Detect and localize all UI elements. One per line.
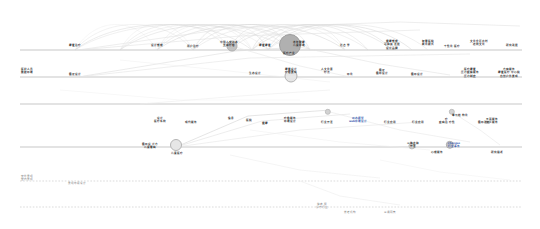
node-label-l1-1[interactable]: 设计管理 [151,44,163,47]
node-label-l4-5[interactable]: 研究描述 [491,151,503,154]
node-label-l4-0[interactable]: 循环设计方 儿童看病 [142,143,157,150]
node-label-l4-2[interactable]: 三体支持 开发 [407,142,419,149]
node-label-l1-7[interactable]: 社会学 [340,44,349,47]
node-label-l1-5[interactable]: 医疗产业 [283,52,295,55]
graph-node-n6[interactable] [170,139,182,151]
node-label-l1-12[interactable]: 研究进展 [506,44,518,47]
node-label-l1-4[interactable]: 康复康复 [259,44,271,47]
node-label-l4-3[interactable]: 心理服务 [431,151,443,154]
node-label-l1-11[interactable]: 文化企区农村 传统文化 [470,40,488,47]
arc-connectors [75,25,428,51]
node-label-l2-4[interactable]: 人文化素 疗法 [321,68,333,75]
node-label-l2-7[interactable]: 循环设计 [411,73,423,76]
node-label-l3-10[interactable]: 疗 疾病治疗性 [439,118,454,125]
node-label-l1-6[interactable]: 老年健康 儿童环境 [293,41,305,48]
node-label-l4-4[interactable]: changes 行业事务 [448,142,460,149]
node-label-l2-6[interactable]: 循证 循环设计 [376,69,388,76]
node-label-l2-1[interactable]: 循证设计 [69,73,81,76]
node-label-l2-3[interactable]: 康复设计 疗愈景观 [285,68,297,75]
node-label-l3-9[interactable]: 行业应用 [412,121,424,124]
node-label-l3-8[interactable]: 行业应用 [384,121,396,124]
node-label-l1-8[interactable]: 健康管理 可持续发展 设计品牌 [384,40,399,50]
node-label-l1-0[interactable]: 康复治疗 [69,44,81,47]
node-label-l3-2[interactable]: 信息 [228,117,234,120]
lane-lines [20,50,522,207]
node-label-l1-2[interactable]: 用户治疗 [187,45,199,48]
node-label-l3-4[interactable]: 健康 [262,122,268,125]
node-label-l2-2[interactable]: 生态设计 [249,72,261,75]
node-label-l6-2[interactable]: 三通网管 [384,211,396,214]
node-label-l3-5[interactable]: 疗愈服务 环境设计 [284,117,296,124]
node-label-l6-1[interactable]: 养老机构 [344,211,356,214]
node-label-l3-12[interactable]: 单元结构化 [452,114,467,117]
node-label-l5-1[interactable]: 景观环境设计 [68,182,86,185]
node-label-l1-10[interactable]: 个性化医疗 [444,45,459,48]
node-label-l6-0[interactable]: 健康服 诊疗行业 [316,203,328,210]
node-label-l3-0[interactable]: 设计 医疗系统 [154,117,166,124]
node-label-l2-9[interactable]: 方案服务 康复医疗中心院 自然户外景观 [498,68,519,78]
arc-connector [75,25,290,51]
node-label-l3-7[interactable]: 动态模型 web环境设计 [349,117,367,124]
node-label-l2-0[interactable]: 医护人员 数据环境 [21,68,33,75]
node-label-l5-0[interactable]: 室外景观 室内景观 [21,175,33,182]
node-label-l3-1[interactable]: 现代服务 [185,121,197,124]
node-label-l3-6[interactable]: 行业开发 [321,121,333,124]
node-label-l1-3[interactable]: 中国人文人本 支持疗愈 [220,41,238,48]
diagram-canvas: 康复治疗设计管理用户治疗中国人文人本 支持疗愈康复康复医疗产业老年健康 儿童环境… [0,0,540,229]
node-label-l3-13[interactable]: 平面服务 加工服务 [486,118,498,125]
node-label-l3-3[interactable]: 医院 [246,119,252,122]
node-label-l2-8[interactable]: 医疗康复 压力缓解服务 压力制度 [461,68,479,78]
node-label-l1-9[interactable]: 智慧医院 新化模式 [422,40,434,47]
node-label-l2-5[interactable]: 环化 [347,73,353,76]
arc-connector [75,25,157,51]
node-label-l4-1[interactable]: 儿童医疗 [171,152,183,155]
